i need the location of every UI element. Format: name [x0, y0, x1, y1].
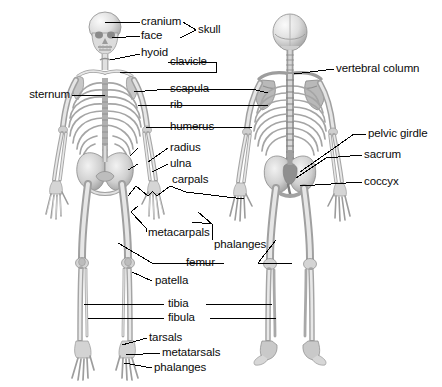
label-vertebral-column: vertebral column [336, 63, 419, 75]
posterior-skeleton [230, 14, 350, 365]
skeleton-diagram: cranium face skull hyoid clavicle sternu… [0, 0, 442, 387]
label-fibula: fibula [168, 312, 195, 324]
posterior-right-leg [303, 188, 326, 365]
label-sternum: sternum [29, 89, 70, 101]
skeleton-illustration [0, 0, 442, 387]
label-coccyx: coccyx [364, 176, 399, 188]
label-skull: skull [198, 24, 221, 36]
posterior-right-arm [320, 83, 350, 221]
label-rib: rib [170, 99, 182, 111]
label-scapula: scapula [170, 83, 209, 95]
label-tibia: tibia [168, 298, 189, 310]
label-radius: radius [170, 142, 201, 154]
posterior-skull [273, 14, 307, 51]
posterior-left-arm [230, 83, 260, 221]
anterior-left-leg [72, 184, 94, 380]
label-sacrum: sacrum [364, 149, 401, 161]
anterior-skeleton [46, 12, 164, 380]
label-ulna: ulna [170, 158, 191, 170]
label-femur: femur [186, 257, 215, 269]
label-phalanges-foot: phalanges [154, 362, 206, 374]
anterior-right-arm [134, 80, 164, 219]
label-cranium: cranium [141, 16, 181, 28]
label-carpals: carpals [172, 174, 208, 186]
posterior-left-leg [254, 188, 277, 365]
anterior-left-arm [46, 80, 76, 219]
anterior-skull [89, 12, 121, 54]
label-patella: patella [155, 275, 188, 287]
label-pelvic-girdle: pelvic girdle [368, 128, 427, 140]
label-clavicle: clavicle [170, 56, 207, 68]
label-face: face [141, 30, 162, 42]
anterior-right-leg [116, 184, 138, 380]
leader-lines [72, 22, 366, 368]
label-humerus: humerus [170, 121, 214, 133]
label-phalanges-hand: phalanges [214, 239, 266, 251]
label-metatarsals: metatarsals [162, 347, 220, 359]
label-tarsals: tarsals [149, 332, 182, 344]
label-metacarpals: metacarpals [148, 227, 210, 239]
label-hyoid: hyoid [141, 47, 168, 59]
